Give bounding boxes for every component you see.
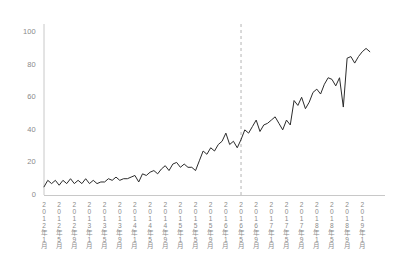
x-tick-label: 2016年1月 — [221, 202, 230, 250]
line-chart: 020406080100 2012年1月2012年5月2012年9月2013年1… — [0, 0, 393, 269]
chart-axes — [44, 24, 385, 196]
x-tick-label: 2013年1月 — [85, 202, 94, 250]
x-tick-label: 2017年1月 — [267, 202, 276, 250]
y-tick-label: 20 — [12, 157, 36, 166]
x-tick-label: 2018年5月 — [327, 202, 336, 250]
x-tick-label: 2018年1月 — [312, 202, 321, 250]
x-tick-label: 2012年5月 — [55, 202, 64, 250]
y-tick-label: 40 — [12, 125, 36, 134]
x-tick-label: 2017年9月 — [297, 202, 306, 250]
x-tick-label: 2015年9月 — [206, 202, 215, 250]
x-tick-label: 2013年5月 — [100, 202, 109, 250]
x-tick-label: 2015年1月 — [176, 202, 185, 250]
y-tick-label: 60 — [12, 92, 36, 101]
y-tick-label: 0 — [12, 190, 36, 199]
x-tick-label: 2014年9月 — [161, 202, 170, 250]
y-tick-label: 100 — [12, 27, 36, 36]
x-tick-label: 2015年5月 — [191, 202, 200, 250]
x-tick-label: 2012年9月 — [70, 202, 79, 250]
x-tick-label: 2016年9月 — [252, 202, 261, 250]
y-tick-label: 80 — [12, 60, 36, 69]
x-tick-label: 2016年5月 — [237, 202, 246, 250]
x-tick-label: 2014年5月 — [146, 202, 155, 250]
x-tick-label: 2017年5月 — [282, 202, 291, 250]
x-tick-label: 2012年1月 — [40, 202, 49, 250]
x-tick-label: 2019年1月 — [358, 202, 367, 250]
x-tick-label: 2018年9月 — [343, 202, 352, 250]
x-tick-label: 2014年1月 — [130, 202, 139, 250]
x-tick-label: 2013年9月 — [115, 202, 124, 250]
data-series-line — [44, 48, 370, 186]
